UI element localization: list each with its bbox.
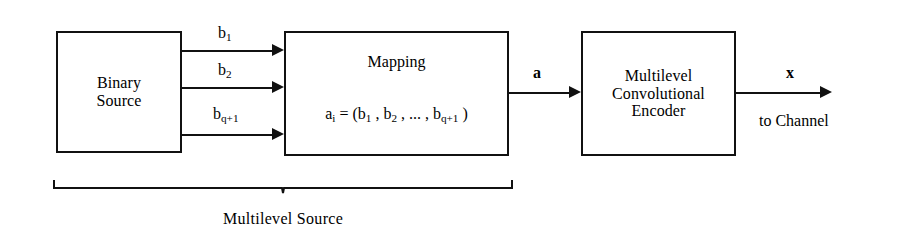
binary-source-label: Binary Source bbox=[96, 74, 141, 110]
binary-source-line-1: Binary bbox=[97, 74, 141, 91]
equation-sep-2: , ... , b bbox=[397, 105, 441, 122]
arrowhead-b2 bbox=[272, 81, 284, 93]
equation-bq1-subscript: q+1 bbox=[441, 112, 459, 124]
signal-b2-base: b bbox=[218, 61, 226, 78]
block-mapping: Mapping ai = (b1 , b2 , ... , bq+1 ) bbox=[284, 31, 509, 156]
connector-line-b1 bbox=[181, 50, 272, 52]
encoder-line-2: Convolutional bbox=[612, 85, 705, 102]
signal-bq1-base: b bbox=[213, 105, 221, 122]
signal-b1-subscript: 1 bbox=[226, 31, 232, 43]
connector-line-a bbox=[509, 92, 569, 94]
signal-label-x: x bbox=[786, 64, 794, 82]
encoder-label: Multilevel Convolutional Encoder bbox=[612, 67, 705, 121]
signal-bq1-subscript: q+1 bbox=[221, 112, 239, 124]
block-diagram-figure: Binary Source b1 b2 bq+1 Mapping ai = (b… bbox=[0, 0, 907, 250]
equation-equals: = (b bbox=[335, 105, 365, 122]
signal-label-bq1: bq+1 bbox=[213, 105, 239, 123]
signal-label-a: a bbox=[533, 64, 541, 82]
connector-line-bq1 bbox=[181, 134, 272, 136]
encoder-line-1: Multilevel bbox=[625, 67, 693, 84]
equation-sep-1: , b bbox=[371, 105, 391, 122]
block-binary-source: Binary Source bbox=[56, 31, 182, 153]
caption-to-channel: to Channel bbox=[759, 112, 829, 130]
block-multilevel-convolutional-encoder: Multilevel Convolutional Encoder bbox=[581, 31, 736, 156]
mapping-equation: ai = (b1 , b2 , ... , bq+1 ) bbox=[286, 105, 507, 123]
mapping-title: Mapping bbox=[286, 53, 507, 71]
signal-label-b1: b1 bbox=[218, 24, 232, 42]
connector-line-x bbox=[736, 92, 820, 94]
signal-b1-base: b bbox=[218, 24, 226, 41]
encoder-line-3: Encoder bbox=[631, 102, 685, 119]
arrowhead-a bbox=[569, 86, 581, 98]
equation-close-paren: ) bbox=[458, 105, 467, 122]
connector-line-b2 bbox=[181, 87, 272, 89]
arrowhead-x bbox=[820, 86, 832, 98]
binary-source-line-2: Source bbox=[96, 92, 141, 109]
signal-label-b2: b2 bbox=[218, 61, 232, 79]
arrowhead-bq1 bbox=[272, 128, 284, 140]
signal-b2-subscript: 2 bbox=[226, 68, 232, 80]
arrowhead-b1 bbox=[272, 44, 284, 56]
multilevel-source-bracket bbox=[53, 180, 513, 194]
caption-multilevel-source: Multilevel Source bbox=[53, 210, 513, 228]
